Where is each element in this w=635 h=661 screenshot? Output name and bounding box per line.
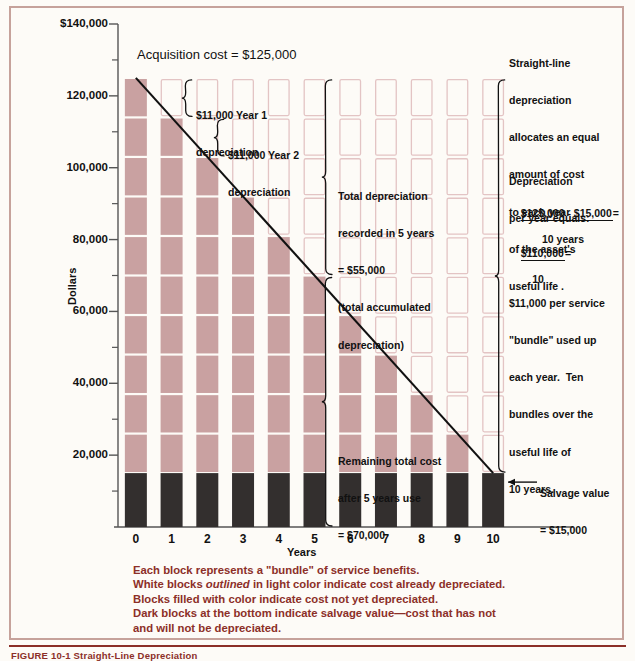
x-axis-tick-label: 7	[366, 532, 406, 546]
filled-bundle-block	[125, 277, 147, 314]
year2-depreciation-label: $11,000 Year 2 depreciation	[228, 124, 299, 223]
total-dep-line4: (total accumulated	[338, 301, 434, 313]
outlined-bundle-block	[411, 119, 432, 155]
salvage-block	[125, 473, 147, 527]
salvage-block	[161, 473, 183, 527]
total-depreciation-label: Total depreciation recorded in 5 years =…	[338, 165, 434, 376]
filled-bundle-block	[411, 395, 433, 432]
filled-bundle-block	[161, 198, 183, 235]
outlined-bundle-block	[483, 356, 504, 392]
right-p3-l2: "bundle" used up	[509, 334, 605, 346]
filled-bundle-block	[232, 316, 254, 353]
caption-line-2a: White blocks	[133, 578, 206, 590]
outlined-bundle-block	[447, 80, 468, 116]
remaining-line1: Remaining total cost	[338, 455, 441, 467]
x-axis-tick-label: 6	[330, 532, 370, 546]
year1-brace	[182, 80, 192, 117]
right-p3-l5: useful life of	[509, 446, 605, 458]
y-axis-tick-label: 100,000	[20, 161, 108, 173]
filled-bundle-block	[161, 277, 183, 314]
filled-bundle-block	[268, 237, 290, 274]
filled-bundle-block	[125, 316, 147, 353]
right-p3-l6: 10 years.	[509, 483, 605, 495]
x-axis-tick-label: 0	[116, 532, 156, 546]
filled-bundle-block	[304, 435, 326, 472]
filled-bundle-block	[268, 395, 290, 432]
acquisition-cost-label: Acquisition cost = $125,000	[137, 47, 296, 62]
x-axis-tick-label: 4	[259, 532, 299, 546]
right-p3-l3: each year. Ten	[509, 371, 605, 383]
filled-bundle-block	[125, 119, 147, 156]
x-axis-tick-label: 10	[473, 532, 513, 546]
filled-bundle-block	[268, 356, 290, 393]
outlined-bundle-block	[483, 119, 504, 155]
filled-bundle-block	[125, 158, 147, 195]
filled-bundle-block	[161, 356, 183, 393]
filled-bundle-block	[268, 435, 290, 472]
year1-line1: $11,000 Year 1	[196, 109, 267, 121]
formula1-equals: =	[613, 207, 619, 219]
y-axis-tick-label: 20,000	[20, 448, 108, 460]
outlined-bundle-block	[268, 80, 289, 116]
outlined-bundle-block	[447, 159, 468, 195]
outlined-bundle-block	[447, 238, 468, 274]
outlined-bundle-block	[447, 356, 468, 392]
formula2-equals: =	[565, 247, 571, 259]
outlined-bundle-block	[411, 80, 432, 116]
filled-bundle-block	[161, 158, 183, 195]
outlined-bundle-block	[483, 277, 504, 313]
salvage-block	[446, 473, 468, 527]
filled-bundle-block	[125, 237, 147, 274]
salvage-block	[482, 473, 504, 527]
total-dep-line1: Total depreciation	[338, 190, 434, 202]
legend-caption-block: Each block represents a "bundle" of serv…	[133, 563, 505, 635]
caption-line-3: Blocks filled with color indicate cost n…	[133, 592, 505, 606]
filled-bundle-block	[161, 395, 183, 432]
filled-bundle-block	[161, 119, 183, 156]
x-axis-tick-label: 1	[152, 532, 192, 546]
filled-bundle-block	[268, 316, 290, 353]
outlined-bundle-block	[304, 159, 325, 195]
outlined-bundle-block	[483, 238, 504, 274]
filled-bundle-block	[196, 316, 218, 353]
filled-bundle-block	[196, 277, 218, 314]
caption-line-2b-italic: outlined	[206, 578, 250, 590]
year2-line1: $11,000 Year 2	[228, 149, 299, 161]
filled-bundle-block	[375, 395, 397, 432]
x-axis-tick-label: 8	[402, 532, 442, 546]
filled-bundle-block	[196, 237, 218, 274]
y-axis-title: Dollars	[66, 268, 78, 305]
filled-bundle-block	[125, 79, 147, 116]
right-p2-l1: Depreciation	[509, 175, 590, 187]
right-p3-l4: bundles over the	[509, 408, 605, 420]
salvage-block	[304, 473, 326, 527]
y-axis-tick-label: 120,000	[20, 89, 108, 101]
filled-bundle-block	[232, 435, 254, 472]
filled-bundle-block	[125, 395, 147, 432]
filled-bundle-block	[304, 356, 326, 393]
caption-line-2: White blocks outlined in light color ind…	[133, 577, 505, 591]
y-axis-tick-label: 40,000	[20, 376, 108, 388]
right-p1-l3: allocates an equal	[509, 131, 599, 143]
year2-line2: depreciation	[228, 186, 299, 198]
filled-bundle-block	[232, 237, 254, 274]
formula2-numerator: $110,000	[521, 247, 565, 260]
filled-bundle-block	[339, 395, 361, 432]
x-axis-tick-label: 5	[295, 532, 335, 546]
filled-bundle-block	[196, 198, 218, 235]
outlined-bundle-block	[483, 396, 504, 432]
outlined-bundle-block	[483, 317, 504, 353]
filled-bundle-block	[125, 356, 147, 393]
x-axis-tick-label: 2	[187, 532, 227, 546]
outlined-bundle-block	[340, 80, 361, 116]
caption-line-1: Each block represents a "bundle" of serv…	[133, 563, 505, 577]
salvage-block	[196, 473, 218, 527]
filled-bundle-block	[232, 395, 254, 432]
outlined-bundle-block	[376, 119, 397, 155]
caption-line-2c: in light color indicate cost already dep…	[250, 578, 506, 590]
y-axis-tick-label: $140,000	[20, 17, 108, 29]
outlined-bundle-block	[304, 80, 325, 116]
right-p3-l1: $11,000 per service	[509, 297, 605, 309]
outlined-bundle-block	[376, 80, 397, 116]
